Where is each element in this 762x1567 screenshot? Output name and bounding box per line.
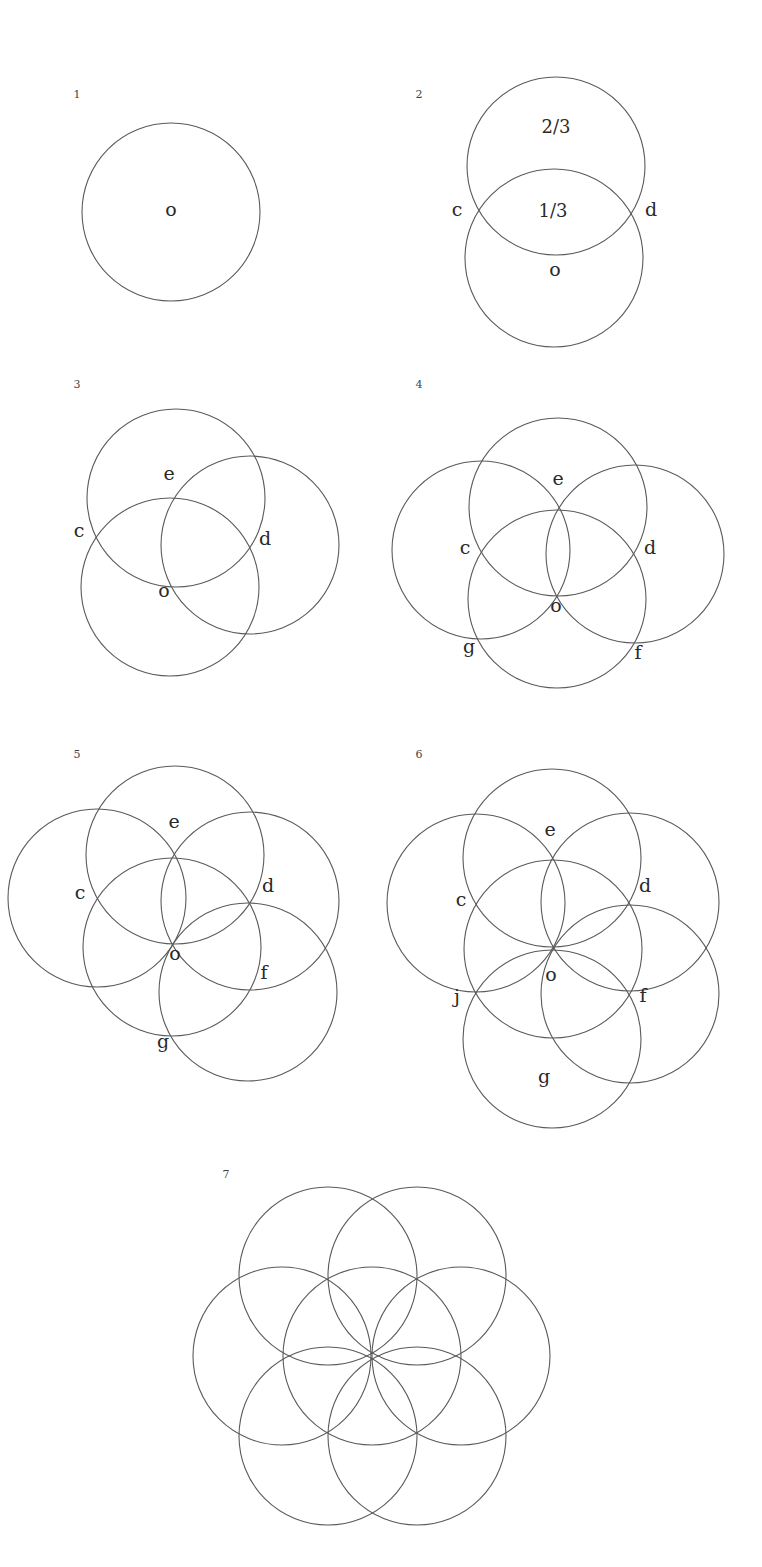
panel-number: 6 [416, 748, 423, 761]
panel-2: 22/31/3cdo [416, 77, 658, 347]
panel-number: 7 [223, 1168, 230, 1181]
point-label-o: o [165, 198, 176, 220]
point-label-d: d [639, 874, 651, 896]
point-label-g: g [157, 1030, 169, 1052]
point-label-f: f [634, 641, 643, 663]
point-label-e: e [168, 810, 179, 832]
point-label-o: o [169, 942, 180, 964]
panel-6: 6ecdojfg [387, 748, 719, 1128]
panel-5: 5ecdofg [8, 748, 339, 1081]
point-label-c: c [74, 519, 85, 541]
diagram-canvas: 1o22/31/3cdo3ecdo4ecdogf5ecdofg6ecdojfg7 [0, 0, 762, 1567]
point-label-d: d [259, 527, 271, 549]
point-label-d: d [644, 536, 656, 558]
point-label-e: e [552, 467, 563, 489]
panel-4: 4ecdogf [392, 378, 724, 688]
seed-of-life-construction-figure: 1o22/31/3cdo3ecdo4ecdogf5ecdofg6ecdojfg7 [0, 0, 762, 1567]
panel-3: 3ecdo [74, 378, 340, 676]
point-label-j: j [452, 985, 460, 1007]
circle-2 [387, 814, 565, 992]
circle-3 [541, 813, 719, 991]
circle-2 [392, 461, 570, 639]
circle-4 [193, 1267, 371, 1445]
point-label-1-3: 1/3 [539, 200, 568, 221]
panel-7: 7 [193, 1168, 550, 1525]
point-label-o: o [549, 258, 560, 280]
point-label-c: c [456, 888, 467, 910]
circle-1 [469, 418, 647, 596]
point-label-e: e [544, 818, 555, 840]
panel-1: 1o [74, 88, 261, 301]
panel-number: 3 [74, 378, 81, 391]
point-label-o: o [158, 579, 169, 601]
point-label-f: f [260, 961, 269, 983]
point-label-c: c [75, 881, 86, 903]
point-label-o: o [545, 963, 556, 985]
point-label-2-3: 2/3 [542, 116, 571, 137]
panel-number: 5 [74, 748, 81, 761]
circle-1 [467, 77, 645, 255]
panel-number: 4 [416, 378, 423, 391]
panel-number: 1 [74, 88, 81, 101]
point-label-e: e [163, 462, 174, 484]
circle-5 [159, 903, 337, 1081]
point-label-d: d [262, 874, 274, 896]
panel-number: 2 [416, 88, 423, 101]
point-label-g: g [538, 1065, 550, 1087]
point-label-d: d [645, 198, 657, 220]
point-label-f: f [639, 984, 648, 1006]
point-label-c: c [460, 536, 471, 558]
circle-1 [463, 769, 641, 947]
circle-2 [161, 456, 339, 634]
point-label-o: o [550, 594, 561, 616]
point-label-g: g [463, 635, 475, 657]
point-label-c: c [452, 198, 463, 220]
circle-3 [546, 465, 724, 643]
circle-3 [161, 812, 339, 990]
